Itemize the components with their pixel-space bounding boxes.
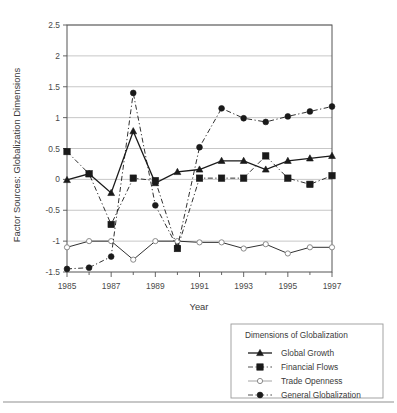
legend-entry-label: General Globalization — [281, 390, 361, 400]
data-point — [64, 245, 69, 250]
data-point — [241, 115, 247, 121]
chart-legend: Dimensions of Globalization Global Growt… — [231, 324, 383, 400]
data-point — [86, 239, 91, 244]
data-point — [241, 246, 246, 251]
y-tick-label: -1.5 — [46, 267, 61, 277]
x-tick-label: 1995 — [279, 281, 298, 291]
data-point — [263, 119, 269, 125]
y-tick-label: -1 — [53, 236, 61, 246]
data-point — [64, 266, 70, 272]
data-point — [130, 90, 136, 96]
data-point — [131, 257, 136, 262]
legend-title: Dimensions of Globalization — [245, 330, 348, 340]
x-tick-label: 1985 — [58, 281, 77, 291]
data-point — [108, 254, 114, 260]
y-tick-label: 0 — [55, 174, 60, 184]
data-point — [130, 175, 136, 181]
legend-marker — [257, 364, 263, 370]
x-tick-label: 1991 — [190, 281, 209, 291]
data-point — [263, 242, 268, 247]
y-tick-label: 2 — [55, 51, 60, 61]
data-point — [197, 144, 203, 150]
data-point — [152, 202, 158, 208]
x-tick-label: 1989 — [146, 281, 165, 291]
data-point — [285, 175, 291, 181]
data-point — [329, 245, 334, 250]
data-point — [329, 172, 335, 178]
data-point — [197, 240, 202, 245]
data-point — [86, 171, 92, 177]
y-tick-label: -0.5 — [46, 205, 61, 215]
y-tick-label: 1.5 — [48, 82, 60, 92]
data-point — [307, 181, 313, 187]
y-tick-label: 2.5 — [48, 20, 60, 30]
data-point — [263, 153, 269, 159]
data-point — [64, 148, 70, 154]
data-point — [196, 175, 202, 181]
data-point — [86, 265, 92, 271]
x-tick-label: 1997 — [323, 281, 342, 291]
x-tick-label: 1993 — [234, 281, 253, 291]
y-tick-label: 0.5 — [48, 144, 60, 154]
data-point — [153, 239, 158, 244]
data-point — [175, 244, 181, 250]
globalization-dimensions-line-chart: Factor Sources: Globalization Dimensions… — [0, 0, 397, 413]
data-point — [240, 175, 246, 181]
legend-entry-label: Global Growth — [281, 348, 334, 358]
legend-marker — [257, 378, 262, 383]
data-point — [219, 240, 224, 245]
data-point — [218, 175, 224, 181]
x-tick-label: 1987 — [102, 281, 121, 291]
y-axis-title: Factor Sources: Globalization Dimensions — [11, 67, 22, 242]
data-point — [219, 105, 225, 111]
data-point — [108, 221, 114, 227]
figure-container: Factor Sources: Globalization Dimensions… — [0, 0, 397, 413]
data-point — [285, 251, 290, 256]
data-point — [152, 177, 158, 183]
data-point — [285, 113, 291, 119]
data-point — [329, 104, 335, 110]
x-axis-title: Year — [190, 301, 209, 312]
data-point — [307, 245, 312, 250]
data-point — [307, 109, 313, 115]
legend-entry-label: Financial Flows — [281, 362, 338, 372]
legend-marker — [257, 392, 263, 398]
y-tick-label: 1 — [55, 113, 60, 123]
legend-entry-label: Trade Openness — [281, 376, 343, 386]
